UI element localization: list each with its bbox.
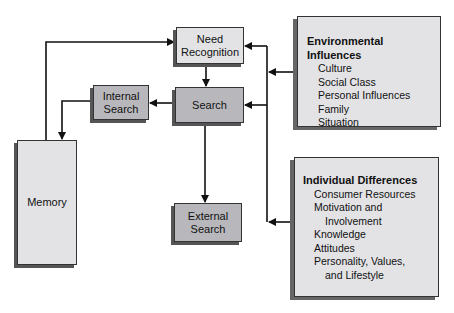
environmental-influences-title: Environmental Influences — [307, 35, 440, 62]
env-item: Personal Influences — [307, 89, 440, 103]
external-search-label-2: Search — [191, 223, 226, 235]
need-recognition-node: NeedRecognition — [176, 27, 244, 64]
memory-label: Memory — [27, 196, 67, 209]
memory-node: Memory — [17, 140, 77, 265]
indiv-item: and Lifestyle — [303, 269, 438, 283]
indiv-item: Attitudes — [303, 242, 438, 256]
external-search-node: ExternalSearch — [174, 203, 242, 242]
internal-search-node: InternalSearch — [93, 85, 149, 120]
env-item: Social Class — [307, 76, 440, 90]
indiv-item: Personality, Values, — [303, 255, 438, 269]
indiv-item: Motivation and — [303, 201, 438, 215]
internal-search-label-2: Search — [104, 103, 139, 115]
env-item: Situation — [307, 116, 440, 130]
environmental-influences-panel: Environmental Influences Culture Social … — [297, 16, 441, 127]
need-recognition-label-1: Need — [197, 33, 223, 45]
internal-search-label-1: Internal — [103, 90, 140, 102]
external-search-label-1: External — [188, 210, 228, 222]
search-node: Search — [175, 87, 244, 123]
indiv-item: Knowledge — [303, 228, 438, 242]
need-recognition-label-2: Recognition — [181, 46, 239, 58]
env-item: Culture — [307, 62, 440, 76]
individual-differences-panel: Individual Differences Consumer Resource… — [294, 157, 439, 297]
indiv-item: Involvement — [303, 215, 438, 229]
individual-differences-title: Individual Differences — [303, 174, 438, 188]
search-label: Search — [192, 99, 227, 112]
indiv-item: Consumer Resources — [303, 188, 438, 202]
env-item: Family — [307, 103, 440, 117]
